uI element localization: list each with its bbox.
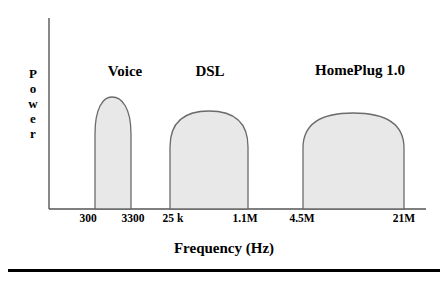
band-label-dsl: DSL bbox=[180, 63, 240, 80]
x-axis-title: Frequency (Hz) bbox=[0, 240, 448, 257]
x-tick-label: 300 bbox=[66, 212, 110, 224]
x-tick-label: 3300 bbox=[110, 212, 156, 224]
spectrum-figure: P o w e r Voice DSL HomePlug 1.0 300 330… bbox=[0, 0, 448, 285]
x-tick-label: 21M bbox=[382, 212, 426, 224]
band-curve-homeplug bbox=[303, 113, 404, 209]
x-tick-label: 25 k bbox=[151, 212, 195, 224]
x-tick-label: 4.5M bbox=[278, 212, 326, 224]
bottom-rule bbox=[8, 269, 440, 272]
band-label-homeplug: HomePlug 1.0 bbox=[300, 62, 420, 79]
band-label-voice: Voice bbox=[95, 63, 155, 80]
band-curve-voice bbox=[95, 97, 131, 209]
x-tick-label: 1.1M bbox=[222, 212, 268, 224]
band-curve-dsl bbox=[170, 111, 248, 209]
